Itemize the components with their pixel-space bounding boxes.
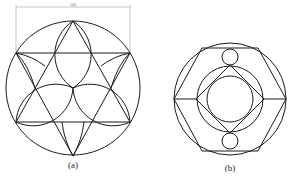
central-petals bbox=[16, 21, 130, 126]
figure-a: 100 bbox=[6, 2, 140, 157]
outer-petals bbox=[16, 53, 130, 156]
diagram-canvas: 100 bbox=[0, 0, 293, 188]
upward-triangle bbox=[16, 21, 130, 122]
dimension-annotation: 100 bbox=[16, 2, 130, 54]
figure-b-label: (b) bbox=[225, 163, 236, 173]
inner-circle bbox=[207, 76, 253, 122]
top-small-circle bbox=[222, 49, 238, 65]
dimension-value: 100 bbox=[70, 2, 77, 7]
figure-b bbox=[174, 43, 286, 155]
rhombus bbox=[196, 65, 264, 133]
bottom-small-circle bbox=[222, 133, 238, 149]
downward-triangle bbox=[16, 53, 130, 156]
figure-a-label: (a) bbox=[68, 160, 78, 170]
